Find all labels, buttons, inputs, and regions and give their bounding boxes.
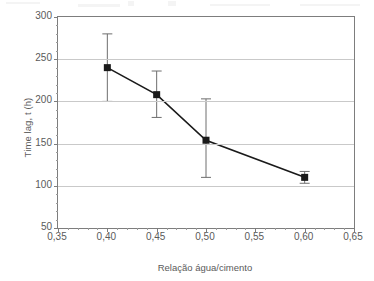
y-axis-minor-tick [56,76,58,77]
y-axis-minor-tick [56,118,58,119]
x-axis-minor-tick [196,228,197,230]
x-axis-minor-tick [334,228,335,230]
gridline-horizontal [58,59,354,60]
y-axis-tick [54,101,58,102]
x-axis-minor-tick [236,228,237,230]
y-axis-minor-tick [56,34,58,35]
y-axis-minor-tick [56,93,58,94]
x-axis-minor-tick [245,228,246,230]
y-axis-minor-tick [56,42,58,43]
y-axis-minor-tick [56,51,58,52]
x-axis-tick-label: 0,45 [136,232,176,242]
y-axis-tick-label: 150 [22,138,52,148]
y-axis-minor-tick [56,25,58,26]
data-point-marker [301,174,308,181]
x-axis-title: Relação água/cimento [57,262,353,273]
x-axis-tick-label: 0,55 [234,232,274,242]
x-axis-minor-tick [186,228,187,230]
x-axis-minor-tick [216,228,217,230]
y-axis-minor-tick [56,160,58,161]
y-axis-tick [54,186,58,187]
x-axis-minor-tick [265,228,266,230]
x-axis-minor-tick [295,228,296,230]
x-axis-tick-label: 0,65 [333,232,373,242]
y-axis-minor-tick [56,152,58,153]
y-axis-minor-tick [56,194,58,195]
y-axis-minor-tick [56,110,58,111]
scan-artifact [300,4,360,6]
x-axis-minor-tick [344,228,345,230]
y-axis-minor-tick [56,68,58,69]
plot-area [57,16,355,229]
x-axis-minor-tick [88,228,89,230]
data-point-marker [104,64,111,71]
x-axis-minor-tick [137,228,138,230]
y-axis-minor-tick [56,169,58,170]
chart-figure: Time lag, t (h) 50100150200250300 0,350,… [0,0,374,281]
x-axis-minor-tick [97,228,98,230]
data-point-marker [153,91,160,98]
x-axis-minor-tick [275,228,276,230]
gridline-horizontal [58,101,354,102]
x-axis-minor-tick [117,228,118,230]
y-axis-tick-label: 300 [22,11,52,21]
y-axis-tick [54,17,58,18]
x-axis-minor-tick [315,228,316,230]
scan-artifact [210,4,270,6]
data-series-layer [58,17,354,228]
x-axis-minor-tick [78,228,79,230]
y-axis-minor-tick [56,85,58,86]
x-axis-tick-label: 0,60 [284,232,324,242]
y-axis-tick-label: 100 [22,180,52,190]
y-axis-tick-label: 200 [22,95,52,105]
x-axis-minor-tick [167,228,168,230]
y-axis-minor-tick [56,177,58,178]
y-axis-tick [54,59,58,60]
x-axis-minor-tick [324,228,325,230]
y-axis-tick-label: 250 [22,53,52,63]
x-axis-tick-label: 0,40 [86,232,126,242]
y-axis-tick [54,144,58,145]
x-axis-minor-tick [226,228,227,230]
y-axis-minor-tick [56,127,58,128]
scan-artifact [128,1,134,6]
x-axis-tick-label: 0,50 [185,232,225,242]
x-axis-tick-labels: 0,350,400,450,500,550,600,65 [57,232,353,246]
scan-artifact [78,4,120,7]
x-axis-minor-tick [147,228,148,230]
x-axis-minor-tick [285,228,286,230]
y-axis-minor-tick [56,135,58,136]
x-axis-minor-tick [68,228,69,230]
x-axis-tick-label: 0,35 [37,232,77,242]
gridline-horizontal [58,186,354,187]
scan-artifact [168,1,176,6]
y-axis-minor-tick [56,211,58,212]
gridline-horizontal [58,144,354,145]
x-axis-minor-tick [127,228,128,230]
y-axis-minor-tick [56,203,58,204]
y-axis-minor-tick [56,220,58,221]
x-axis-minor-tick [176,228,177,230]
